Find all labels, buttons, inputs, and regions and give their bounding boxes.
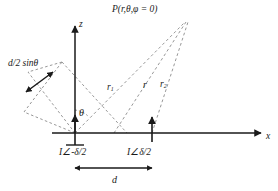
r-label: r bbox=[143, 81, 147, 91]
path-difference-label: d/2 sinθ bbox=[8, 59, 38, 69]
theta-angle-label: θ bbox=[79, 108, 84, 118]
antenna-array-diagram: P(r,θ,φ = 0) z x θ d/2 sinθ r1 r r2 I∠-δ… bbox=[0, 0, 278, 191]
ray-parallel-lower bbox=[24, 112, 75, 133]
x-axis-label: x bbox=[266, 132, 270, 142]
ray-r1 bbox=[75, 22, 185, 133]
diagram-canvas bbox=[0, 0, 278, 191]
field-point-label: P(r,θ,φ = 0) bbox=[112, 5, 157, 15]
z-axis-label: z bbox=[79, 20, 83, 30]
wavefront-line-upper bbox=[24, 62, 62, 112]
source-right-label: I∠δ/2 bbox=[127, 148, 151, 158]
r2-subscript: 2 bbox=[164, 83, 167, 89]
ray-r-center bbox=[114, 22, 186, 133]
ray-bundle bbox=[75, 22, 188, 133]
r1-subscript: 1 bbox=[111, 86, 114, 92]
spacing-label: d bbox=[112, 175, 117, 185]
ray-parallel-upper bbox=[62, 62, 127, 133]
source-left-label: I∠-δ/2 bbox=[59, 148, 86, 158]
ray-r2 bbox=[152, 22, 188, 133]
wavefront-line-left bbox=[28, 72, 75, 133]
r1-label: r1 bbox=[107, 83, 114, 93]
r2-label: r2 bbox=[160, 80, 167, 90]
path-difference-arrow bbox=[26, 72, 53, 92]
